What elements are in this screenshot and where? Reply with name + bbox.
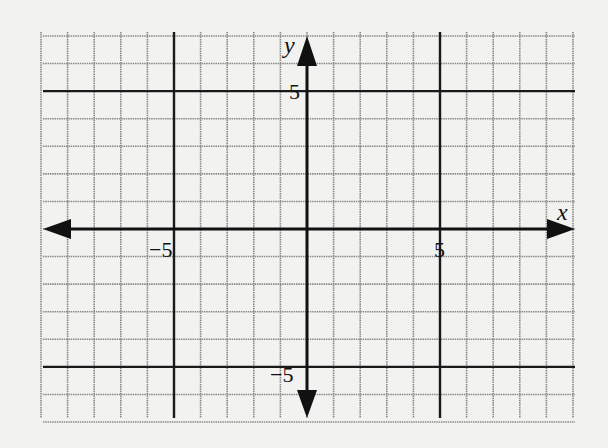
x-axis-label: x	[556, 199, 568, 225]
y-tick-label-neg5: −5	[270, 362, 293, 387]
axes	[43, 36, 575, 418]
coordinate-plane: x y −5 5 5 −5	[0, 0, 608, 448]
x-axis-left-arrow-icon	[43, 219, 71, 239]
y-tick-label-5: 5	[289, 79, 300, 104]
x-tick-label-5: 5	[434, 237, 445, 262]
emphasized-grid-lines	[43, 32, 575, 418]
y-axis-up-arrow-icon	[297, 36, 317, 66]
y-axis-label: y	[282, 32, 295, 58]
x-tick-label-neg5: −5	[149, 237, 172, 262]
y-axis-down-arrow-icon	[297, 390, 317, 418]
